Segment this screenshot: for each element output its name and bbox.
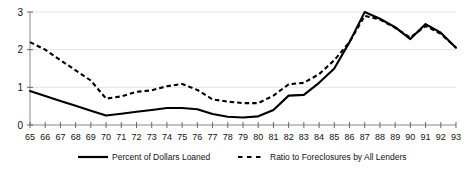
x-tick-label-88: 88 [375, 132, 385, 142]
chart-container: 0123 65666768697071727374757677787980818… [0, 0, 472, 172]
x-tick-label-74: 74 [162, 132, 172, 142]
x-tick-label-81: 81 [268, 132, 278, 142]
x-tick-label-76: 76 [192, 132, 202, 142]
x-tick-label-92: 92 [436, 132, 446, 142]
x-tick-label-67: 67 [55, 132, 65, 142]
x-tick-label-85: 85 [329, 132, 339, 142]
legend-label-1: Percent of Dollars Loaned [112, 152, 211, 162]
series-line-2 [30, 16, 456, 103]
x-tick-label-78: 78 [223, 132, 233, 142]
x-tick-label-80: 80 [253, 132, 263, 142]
y-tick-label-0: 0 [17, 120, 23, 131]
x-tick-label-75: 75 [177, 132, 187, 142]
y-tick-label-1: 1 [17, 82, 23, 93]
x-tick-label-83: 83 [299, 132, 309, 142]
chart-legend: Percent of Dollars LoanedRatio to Forecl… [78, 152, 407, 162]
x-tick-label-70: 70 [101, 132, 111, 142]
y-tick-label-2: 2 [17, 44, 23, 55]
line-chart: 0123 65666768697071727374757677787980818… [0, 0, 472, 172]
x-tick-label-66: 66 [40, 132, 50, 142]
x-tick-label-87: 87 [360, 132, 370, 142]
x-tick-label-77: 77 [208, 132, 218, 142]
x-tick-label-68: 68 [71, 132, 81, 142]
data-series-group [30, 12, 456, 117]
x-tick-label-69: 69 [86, 132, 96, 142]
x-tick-label-86: 86 [344, 132, 354, 142]
axes [30, 12, 456, 125]
x-tick-label-73: 73 [147, 132, 157, 142]
x-axis-tick-labels: 6566676869707172737475767778798081828384… [25, 132, 461, 142]
x-tick-label-90: 90 [405, 132, 415, 142]
x-tick-label-65: 65 [25, 132, 35, 142]
x-tick-label-71: 71 [116, 132, 126, 142]
series-line-1 [30, 12, 456, 117]
y-axis-tick-labels: 0123 [17, 7, 33, 131]
x-tick-label-82: 82 [284, 132, 294, 142]
gridlines [30, 12, 456, 87]
legend-label-2: Ratio to Foreclosures by All Lenders [270, 152, 407, 162]
x-tick-label-72: 72 [131, 132, 141, 142]
x-tick-label-84: 84 [314, 132, 324, 142]
x-tick-label-91: 91 [421, 132, 431, 142]
x-tick-label-79: 79 [238, 132, 248, 142]
x-tick-label-93: 93 [451, 132, 461, 142]
y-tick-label-3: 3 [17, 7, 23, 18]
x-tick-label-89: 89 [390, 132, 400, 142]
